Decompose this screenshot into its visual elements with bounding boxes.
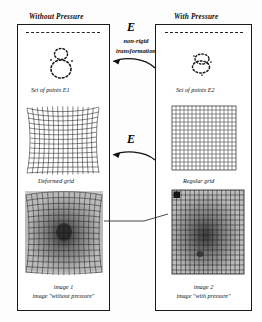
caption-set-of-points-e2: Set of points E2 xyxy=(176,87,214,93)
image-2-with-pressure xyxy=(168,186,248,278)
point-cluster-e1-icon xyxy=(44,44,80,84)
dashed-rule-left xyxy=(26,32,100,33)
transformation-arrow-top-icon xyxy=(106,54,158,72)
transformation-symbol-bottom: E xyxy=(127,132,135,147)
transformation-label: non-rigid transformation xyxy=(112,36,160,55)
point-cluster-e2-icon xyxy=(185,48,219,80)
image-1-caption: image 1 image "without pressure" xyxy=(17,283,110,301)
regular-grid-drawing xyxy=(170,104,238,172)
transformation-symbol-top: E xyxy=(127,20,135,35)
column-heading-without-pressure: Without Pressure xyxy=(29,13,84,21)
caption-set-of-points-e1: Set of points E1 xyxy=(31,87,69,93)
dashed-rule-right xyxy=(165,32,243,33)
marked-grid-cell xyxy=(174,192,181,199)
image-2-caption-line2: image "with pressure" xyxy=(155,292,252,301)
figure-canvas: Without Pressure With Pressure Set of po… xyxy=(0,0,262,322)
caption-deformed-grid: Deformed grid xyxy=(38,178,74,184)
deformed-grid-drawing xyxy=(22,104,104,176)
transformation-arrow-bottom-icon xyxy=(106,148,158,166)
caption-regular-grid: Regular grid xyxy=(183,178,214,184)
image-1-without-pressure xyxy=(21,186,107,278)
column-heading-with-pressure: With Pressure xyxy=(174,13,218,21)
image-2-caption: image 2 image "with pressure" xyxy=(155,283,252,301)
image-1-caption-line2: image "without pressure" xyxy=(17,292,110,301)
image-1-caption-line1: image 1 xyxy=(17,283,110,292)
image-2-caption-line1: image 2 xyxy=(155,283,252,292)
transformation-label-line1: non-rigid xyxy=(112,36,160,46)
correspondence-connector xyxy=(104,212,170,226)
